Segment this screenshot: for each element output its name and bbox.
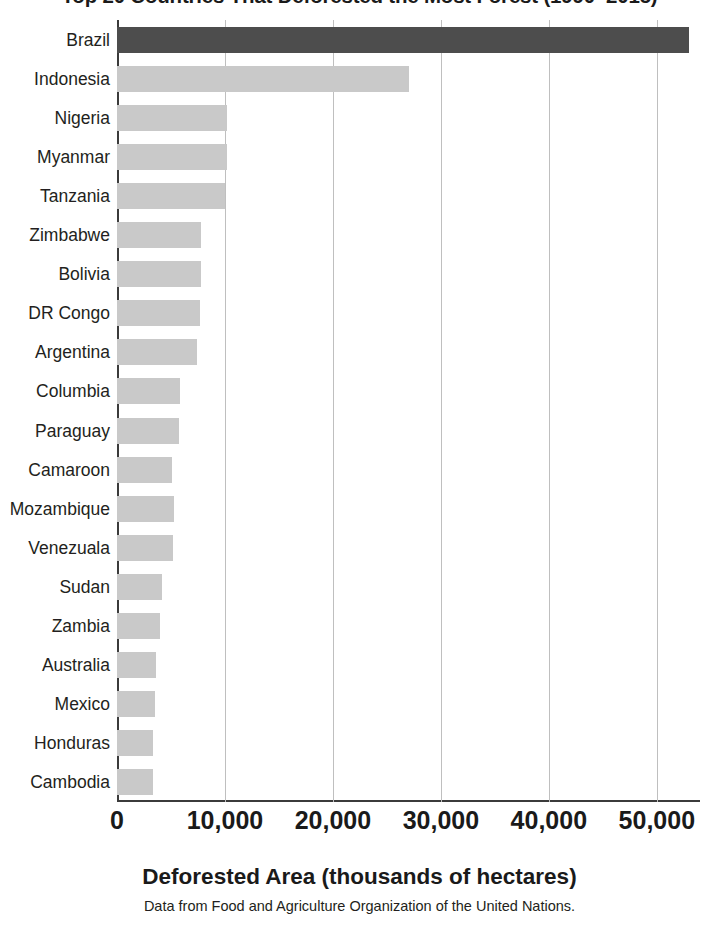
x-axis-tick-label: 0: [110, 806, 124, 835]
y-axis-label: DR Congo: [0, 303, 110, 323]
bar: [117, 261, 201, 287]
bar: [117, 613, 160, 639]
x-axis-tick-label: 40,000: [511, 806, 587, 835]
bar-row: [117, 20, 700, 59]
plot-area: [117, 20, 700, 802]
x-axis-tick-labels: 010,00020,00030,00040,00050,000: [117, 806, 700, 840]
bar: [117, 27, 689, 53]
y-axis-label: Zambia: [0, 616, 110, 636]
bar-row: [117, 685, 700, 724]
y-axis-label: Indonesia: [0, 69, 110, 89]
bar-row: [117, 489, 700, 528]
bar-row: [117, 333, 700, 372]
bar: [117, 574, 162, 600]
bar: [117, 769, 153, 795]
bar: [117, 66, 409, 92]
bar-row: [117, 567, 700, 606]
bar: [117, 457, 172, 483]
bar: [117, 378, 180, 404]
y-axis-label: Australia: [0, 655, 110, 675]
y-axis-label: Sudan: [0, 577, 110, 597]
bar: [117, 183, 225, 209]
y-axis-label: Tanzania: [0, 186, 110, 206]
bar: [117, 144, 227, 170]
y-axis-category-labels: BrazilIndonesiaNigeriaMyanmarTanzaniaZim…: [0, 20, 110, 802]
bars-layer: [117, 20, 700, 802]
y-axis-label: Brazil: [0, 30, 110, 50]
y-axis-label: Mexico: [0, 694, 110, 714]
bar: [117, 535, 173, 561]
bar-row: [117, 294, 700, 333]
x-axis-tick-label: 50,000: [619, 806, 695, 835]
bar-row: [117, 763, 700, 802]
bar: [117, 691, 155, 717]
bar-row: [117, 216, 700, 255]
x-axis-tick-label: 30,000: [403, 806, 479, 835]
bar: [117, 652, 156, 678]
x-axis-tick-label: 20,000: [295, 806, 371, 835]
bar: [117, 300, 200, 326]
bar-row: [117, 255, 700, 294]
bar: [117, 418, 179, 444]
bar-row: [117, 607, 700, 646]
y-axis-label: Nigeria: [0, 108, 110, 128]
bar: [117, 339, 197, 365]
y-axis-label: Honduras: [0, 733, 110, 753]
y-axis-label: Bolivia: [0, 264, 110, 284]
bar-row: [117, 176, 700, 215]
y-axis-label: Camaroon: [0, 460, 110, 480]
bar-row: [117, 724, 700, 763]
bar-row: [117, 646, 700, 685]
bar-row: [117, 411, 700, 450]
y-axis-label: Mozambique: [0, 499, 110, 519]
bar: [117, 222, 201, 248]
source-note: Data from Food and Agriculture Organizat…: [0, 898, 719, 914]
bar-row: [117, 372, 700, 411]
x-axis-title: Deforested Area (thousands of hectares): [0, 864, 719, 890]
bar-row: [117, 528, 700, 567]
y-axis-label: Paraguay: [0, 421, 110, 441]
chart-title: Top 20 Countries That Deforested the Mos…: [0, 0, 719, 8]
x-axis-tick-label: 10,000: [187, 806, 263, 835]
bar-row: [117, 98, 700, 137]
bar-row: [117, 137, 700, 176]
y-axis-label: Myanmar: [0, 147, 110, 167]
y-axis-label: Columbia: [0, 381, 110, 401]
bar-row: [117, 450, 700, 489]
bar-row: [117, 59, 700, 98]
y-axis-label: Cambodia: [0, 772, 110, 792]
bar: [117, 730, 153, 756]
y-axis-label: Zimbabwe: [0, 225, 110, 245]
bar: [117, 105, 227, 131]
y-axis-label: Argentina: [0, 342, 110, 362]
bar-chart: Top 20 Countries That Deforested the Mos…: [0, 0, 719, 925]
y-axis-label: Venezuala: [0, 538, 110, 558]
bar: [117, 496, 174, 522]
